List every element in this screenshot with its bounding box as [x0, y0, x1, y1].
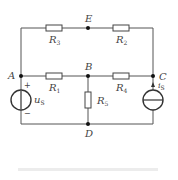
node-d-dot [86, 122, 90, 126]
node-c-dot [151, 74, 155, 78]
arrow-up-icon [151, 82, 155, 87]
node-d-label: D [84, 128, 93, 139]
voltage-source-label: uS [34, 94, 45, 106]
node-c-label: C [159, 71, 167, 82]
resistor-r4 [113, 73, 129, 79]
node-e-label: E [84, 13, 93, 24]
resistor-r1 [46, 73, 62, 79]
circuit-diagram: + − uS iS E A B C D R3 R2 R1 R4 R5 [0, 0, 178, 180]
r4-label: R4 [115, 82, 128, 94]
current-source: iS [143, 81, 165, 110]
r3-label: R3 [48, 34, 61, 46]
plus-sign: + [24, 81, 31, 90]
r5-label: R5 [96, 95, 109, 107]
node-e-dot [86, 26, 90, 30]
resistor-r5 [85, 92, 91, 108]
resistor-r2 [113, 25, 129, 31]
node-a-dot [19, 74, 23, 78]
r1-label: R1 [48, 82, 60, 94]
voltage-source: + − uS [11, 81, 45, 118]
r2-label: R2 [115, 34, 128, 46]
minus-sign: − [24, 109, 31, 118]
node-b-dot [86, 74, 90, 78]
current-source-label: iS [158, 81, 165, 91]
resistor-r3 [46, 25, 62, 31]
node-b-label: B [84, 61, 92, 72]
figure-caption [18, 168, 158, 171]
node-a-label: A [7, 70, 15, 81]
